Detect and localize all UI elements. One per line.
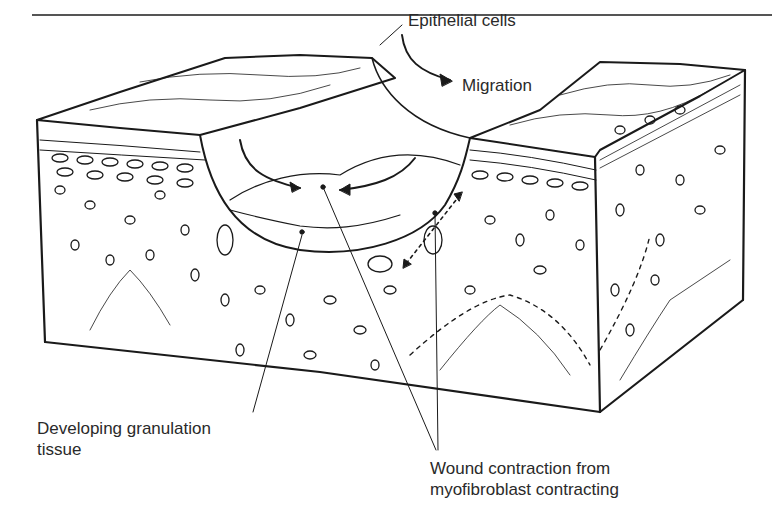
label-granulation-line2: tissue bbox=[37, 439, 211, 460]
bottom-right-edge bbox=[600, 300, 743, 412]
right-back-edge bbox=[743, 70, 745, 300]
migration-indicator-arrow bbox=[402, 35, 450, 80]
label-wound-contraction: Wound contraction from myofibroblast con… bbox=[430, 458, 619, 500]
left-block-top bbox=[37, 55, 395, 135]
label-granulation-tissue: Developing granulation tissue bbox=[37, 418, 211, 460]
label-epithelial-cells: Epithelial cells bbox=[408, 10, 516, 31]
granulation-base bbox=[230, 210, 400, 228]
label-wound-line2: myofibroblast contracting bbox=[430, 479, 619, 500]
granulation-surface bbox=[230, 155, 460, 200]
label-wound-line1: Wound contraction from bbox=[430, 458, 619, 479]
right-front-edge bbox=[595, 157, 600, 412]
label-granulation-line1: Developing granulation bbox=[37, 418, 211, 439]
leader-wound-1 bbox=[323, 187, 436, 450]
leader-granulation bbox=[253, 235, 302, 412]
migration-arrow-right bbox=[340, 158, 415, 190]
left-front-edge bbox=[37, 120, 45, 342]
label-migration: Migration bbox=[462, 75, 532, 96]
bottom-front-edge bbox=[45, 342, 600, 412]
